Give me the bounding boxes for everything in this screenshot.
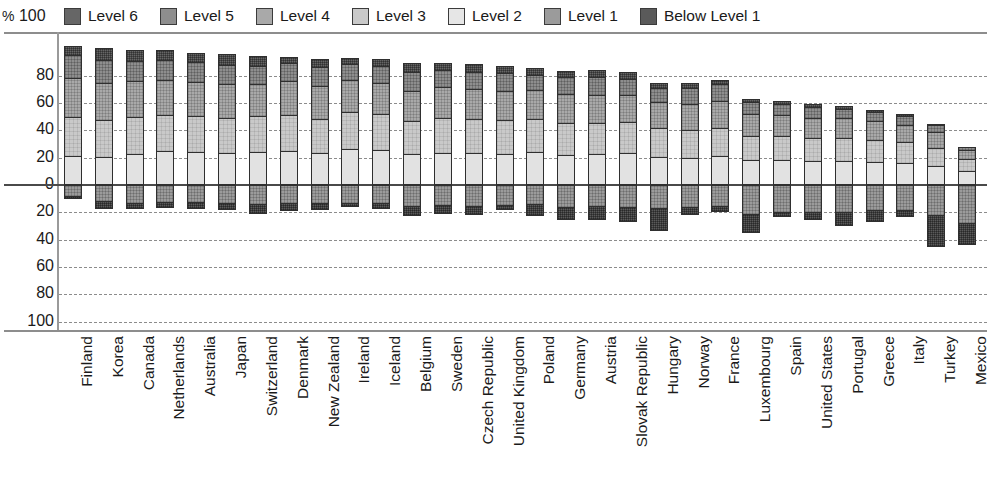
bar-segment-level1 xyxy=(681,185,699,207)
bar-group[interactable] xyxy=(866,32,884,330)
bar-segment-level1 xyxy=(619,185,637,207)
bar-group[interactable] xyxy=(311,32,329,330)
x-axis-label: Denmark xyxy=(294,336,312,486)
bar-segment-level3 xyxy=(465,119,483,154)
bar-segment-level3 xyxy=(711,128,729,156)
bar-group[interactable] xyxy=(742,32,760,330)
bar-group[interactable] xyxy=(372,32,390,330)
bar-segment-level1 xyxy=(465,185,483,206)
percent-sign: % xyxy=(2,8,14,24)
bar-group[interactable] xyxy=(218,32,236,330)
bar-group[interactable] xyxy=(835,32,853,330)
bar-segment-below1 xyxy=(681,207,699,216)
bar-segment-level2 xyxy=(187,152,205,185)
bar-segment-below1 xyxy=(866,210,884,222)
bar-segment-below1 xyxy=(650,208,668,232)
bar-segment-below1 xyxy=(835,212,853,226)
bar-segment-level4 xyxy=(372,83,390,114)
bar-group[interactable] xyxy=(156,32,174,330)
bar-segment-level3 xyxy=(650,128,668,158)
bar-group[interactable] xyxy=(681,32,699,330)
bar-segment-level3 xyxy=(218,118,236,153)
bar-segment-below1 xyxy=(804,212,822,221)
bar-group[interactable] xyxy=(526,32,544,330)
bar-segment-level2 xyxy=(526,152,544,185)
bar-group[interactable] xyxy=(588,32,606,330)
bar-group[interactable] xyxy=(896,32,914,330)
bar-segment-level3 xyxy=(280,115,298,151)
bar-segment-level3 xyxy=(311,119,329,153)
legend-swatch-icon-level3 xyxy=(352,8,369,25)
bar-group[interactable] xyxy=(341,32,359,330)
bar-segment-level1 xyxy=(187,185,205,202)
bar-segment-level1 xyxy=(311,185,329,203)
bar-segment-level4 xyxy=(249,84,267,116)
bar-segment-level4 xyxy=(187,82,205,116)
bar-segment-level1 xyxy=(958,185,976,223)
bar-group[interactable] xyxy=(187,32,205,330)
bar-segment-below1 xyxy=(280,203,298,211)
bar-segment-level1 xyxy=(711,185,729,206)
bar-segment-level3 xyxy=(896,142,914,163)
bar-segment-level1 xyxy=(156,185,174,202)
bar-group[interactable] xyxy=(927,32,945,330)
bar-segment-level5 xyxy=(341,64,359,79)
bar-segment-level4 xyxy=(557,94,575,123)
bar-group[interactable] xyxy=(773,32,791,330)
bar-group[interactable] xyxy=(711,32,729,330)
bar-segment-level3 xyxy=(742,136,760,161)
bar-group[interactable] xyxy=(403,32,421,330)
bar-segment-level5 xyxy=(403,72,421,91)
bar-segment-level3 xyxy=(403,121,421,154)
bar-segment-level5 xyxy=(619,79,637,95)
bar-segment-level1 xyxy=(804,185,822,212)
bar-segment-level4 xyxy=(650,102,668,128)
bar-segment-level1 xyxy=(866,185,884,210)
bar-segment-level2 xyxy=(927,166,945,185)
legend-item-level5: Level 5 xyxy=(160,7,234,25)
bar-segment-level1 xyxy=(557,185,575,207)
bar-segment-level4 xyxy=(403,91,421,121)
bar-group[interactable] xyxy=(465,32,483,330)
bar-group[interactable] xyxy=(126,32,144,330)
bar-group[interactable] xyxy=(557,32,575,330)
bar-segment-level4 xyxy=(866,121,884,140)
bar-segment-level4 xyxy=(434,87,452,118)
bar-segment-level5 xyxy=(126,61,144,81)
bar-group[interactable] xyxy=(804,32,822,330)
bar-segment-level4 xyxy=(896,125,914,143)
bar-segment-level1 xyxy=(526,185,544,204)
x-axis-label: Greece xyxy=(880,336,898,486)
bar-segment-level4 xyxy=(465,89,483,119)
bar-group[interactable] xyxy=(650,32,668,330)
bar-segment-level1 xyxy=(434,185,452,205)
bar-segment-level5 xyxy=(711,84,729,101)
x-axis-label: Luxembourg xyxy=(756,336,774,486)
bar-segment-level4 xyxy=(711,101,729,128)
legend-label-level5: Level 5 xyxy=(184,7,234,25)
bar-group[interactable] xyxy=(249,32,267,330)
bar-segment-level5 xyxy=(835,109,853,118)
bar-segment-level4 xyxy=(773,115,791,136)
bar-group[interactable] xyxy=(958,32,976,330)
bar-group[interactable] xyxy=(64,32,82,330)
bar-segment-level6 xyxy=(465,64,483,71)
bar-segment-below1 xyxy=(927,215,945,247)
x-axis-label: Slovak Republic xyxy=(633,336,651,486)
bar-group[interactable] xyxy=(95,32,113,330)
bar-segment-level2 xyxy=(804,161,822,185)
bar-group[interactable] xyxy=(619,32,637,330)
bar-segment-level1 xyxy=(403,185,421,206)
bar-segment-level3 xyxy=(372,114,390,150)
bar-segment-level2 xyxy=(835,161,853,185)
bar-group[interactable] xyxy=(280,32,298,330)
bar-segment-level2 xyxy=(372,150,390,185)
x-axis-label: Turkey xyxy=(941,336,959,486)
x-axis-label: Canada xyxy=(140,336,158,486)
bar-segment-level4 xyxy=(341,80,359,112)
bar-group[interactable] xyxy=(496,32,514,330)
bar-group[interactable] xyxy=(434,32,452,330)
bar-segment-below1 xyxy=(526,204,544,216)
chart-legend: % 100 Level 6Level 5Level 4Level 3Level … xyxy=(0,0,991,32)
x-axis-label: United States xyxy=(818,336,836,486)
